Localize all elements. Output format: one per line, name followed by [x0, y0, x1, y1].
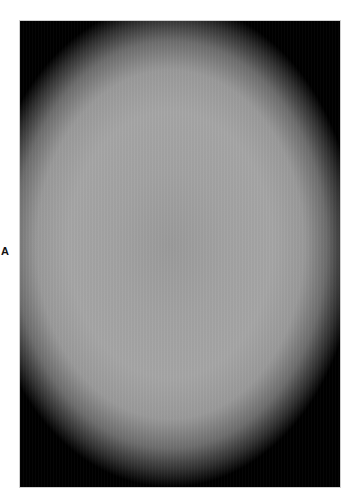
figure-image: [19, 20, 341, 488]
panel-label: A: [1, 245, 9, 257]
illumination-gradient: [20, 21, 340, 487]
